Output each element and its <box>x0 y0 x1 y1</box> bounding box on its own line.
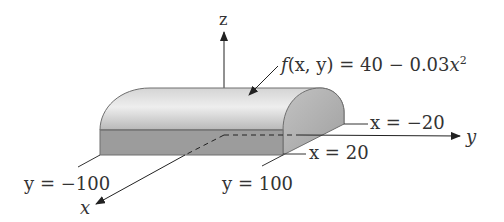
x-axis-label: x <box>80 197 90 218</box>
bound-y-neg-label: y = −100 <box>23 173 110 194</box>
leader-y-neg <box>78 155 100 167</box>
z-axis-label: z <box>219 10 227 29</box>
surface-equation-label: f(x, y) = 40 − 0.03x2 <box>279 54 467 75</box>
bound-y-pos-label: y = 100 <box>221 173 293 194</box>
bound-x-pos-label: x = 20 <box>309 142 369 163</box>
solid-under-surface-diagram: z y x f(x, y) = 40 − 0.03x2 x = −20 x = … <box>0 0 504 222</box>
bound-x-neg-label: x = −20 <box>370 112 445 133</box>
y-axis-label: y <box>465 126 477 147</box>
leader-y-pos <box>262 155 283 166</box>
